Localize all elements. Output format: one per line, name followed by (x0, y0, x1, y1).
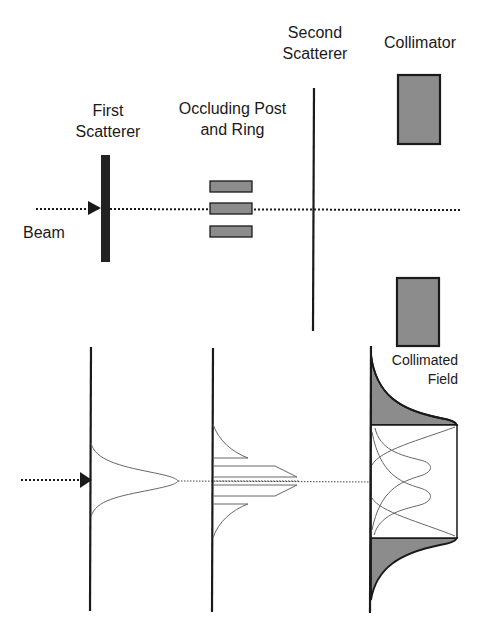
label-first-scatterer: First Scatterer (58, 100, 158, 142)
first-scatterer (101, 155, 110, 262)
label-collimated-field: Collimated Field (370, 351, 458, 389)
occluding-post-and-ring (210, 181, 252, 237)
label-occluding-post-and-ring: Occluding Post and Ring (160, 98, 305, 140)
label-second-scatterer: Second Scatterer (270, 22, 360, 64)
label-collimator: Collimator (370, 32, 470, 53)
label-beam: Beam (23, 222, 83, 243)
profile-2-occluded (213, 424, 300, 538)
diagram-canvas (0, 0, 482, 631)
collimator-bottom (397, 278, 439, 346)
profile-2-baseline (212, 348, 213, 612)
profile-1-gaussian (91, 443, 178, 517)
collimator-top (398, 75, 440, 144)
beam-arrow-icon (88, 201, 101, 215)
penumbra-bottom (371, 538, 457, 600)
profile-1-baseline (90, 347, 91, 611)
second-scatterer (313, 88, 314, 331)
